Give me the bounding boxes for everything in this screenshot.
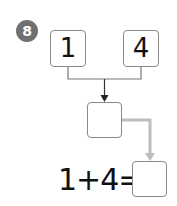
right-number-box: 4 [123,30,159,67]
left-number-box: 1 [50,30,86,67]
equation-text: 1+4= [58,162,142,198]
down-arrow-icon [101,95,109,102]
middle-answer-box[interactable] [87,102,122,138]
gray-arrow-icon [145,153,155,161]
problem-number-badge: 8 [16,20,38,42]
final-answer-box[interactable] [132,161,167,197]
